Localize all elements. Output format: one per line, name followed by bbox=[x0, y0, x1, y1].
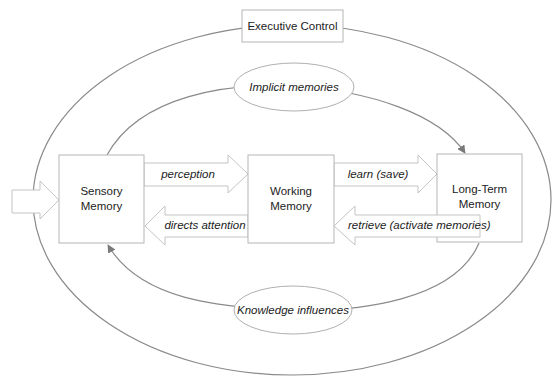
long-term-memory-line1: Long-Term bbox=[437, 182, 522, 197]
sensory-memory-line1: Sensory bbox=[59, 184, 144, 199]
working-memory-label: Working Memory bbox=[248, 184, 334, 214]
implicit-memories-label: Implicit memories bbox=[234, 80, 354, 95]
learn-label: learn (save) bbox=[338, 167, 418, 182]
long-term-memory-label: Long-Term Memory bbox=[437, 182, 522, 212]
retrieve-label: retrieve (activate memories) bbox=[348, 218, 480, 233]
long-term-memory-line2: Memory bbox=[437, 197, 522, 212]
executive-control-label: Executive Control bbox=[242, 19, 343, 34]
working-memory-line1: Working bbox=[248, 184, 334, 199]
working-memory-line2: Memory bbox=[248, 199, 334, 214]
knowledge-influences-label: Knowledge influences bbox=[234, 303, 352, 318]
sensory-memory-label: Sensory Memory bbox=[59, 184, 144, 214]
input-arrow bbox=[12, 181, 59, 219]
sensory-memory-line2: Memory bbox=[59, 199, 144, 214]
perception-label: perception bbox=[148, 167, 228, 182]
directs-attention-label: directs attention bbox=[162, 218, 248, 233]
